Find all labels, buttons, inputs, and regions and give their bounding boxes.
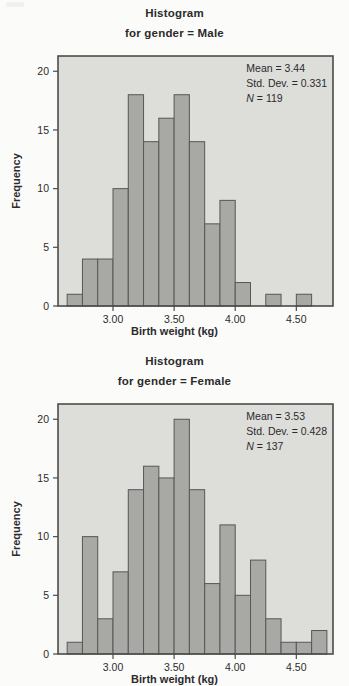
y-axis-label: Frequency: [10, 153, 22, 209]
histogram-bar: [113, 572, 128, 654]
chart-subtitle: for gender = Female: [0, 374, 349, 388]
histogram-bar: [82, 259, 97, 306]
x-tick-label: 4.00: [225, 313, 246, 324]
stat-stddev: Std. Dev. = 0.331: [246, 76, 327, 91]
y-tick-label: 15: [37, 472, 49, 484]
male-histogram-chart: Histogram for gender = Male 051015203.00…: [0, 0, 349, 338]
histogram-bar: [296, 294, 311, 306]
x-tick-label: 3.50: [164, 661, 185, 672]
x-tick-label: 4.00: [225, 661, 246, 672]
stat-n-symbol: N: [246, 440, 254, 452]
histogram-bar: [174, 419, 189, 654]
histogram-bar: [205, 584, 220, 654]
x-axis-label: Birth weight (kg): [0, 672, 349, 686]
y-tick-label: 0: [43, 300, 49, 312]
histogram-bar: [266, 619, 281, 654]
histogram-bar: [220, 525, 235, 654]
scanned-page: { "page": { "background": "#fbfbf9" }, "…: [0, 0, 349, 686]
y-axis-label: Frequency: [10, 501, 22, 557]
histogram-bar: [67, 642, 82, 654]
stats-box: Mean = 3.44 Std. Dev. = 0.331 N = 119: [246, 61, 327, 106]
histogram-bar: [281, 642, 296, 654]
x-axis-label: Birth weight (kg): [0, 324, 349, 338]
stat-n: N = 119: [246, 91, 327, 106]
chart-title: Histogram: [0, 6, 349, 20]
histogram-bar: [174, 95, 189, 306]
histogram-bar: [67, 294, 82, 306]
histogram-bar: [159, 118, 174, 306]
histogram-bar: [113, 189, 128, 306]
histogram-bar: [159, 478, 174, 654]
chart-subtitle: for gender = Male: [0, 26, 349, 40]
x-tick-label: 3.00: [103, 313, 124, 324]
histogram-bar: [82, 537, 97, 654]
y-tick-label: 20: [37, 65, 49, 77]
histogram-bar: [296, 642, 311, 654]
stats-box: Mean = 3.53 Std. Dev. = 0.428 N = 137: [246, 409, 327, 454]
histogram-bar: [189, 490, 204, 654]
x-tick-label: 4.50: [286, 313, 307, 324]
plot-wrap: 051015203.003.504.004.50 Mean = 3.53 Std…: [0, 396, 349, 672]
histogram-bar: [251, 560, 266, 654]
histogram-bar: [144, 142, 159, 306]
histogram-bar: [128, 95, 143, 306]
stat-mean: Mean = 3.53: [246, 409, 327, 424]
stat-n-symbol: N: [246, 92, 254, 104]
histogram-bar: [144, 466, 159, 654]
y-tick-label: 0: [43, 648, 49, 660]
chart-title: Histogram: [0, 354, 349, 368]
histogram-bar: [98, 619, 113, 654]
x-tick-label: 3.00: [103, 661, 124, 672]
stat-stddev: Std. Dev. = 0.428: [246, 424, 327, 439]
stat-n: N = 137: [246, 439, 327, 454]
x-tick-label: 4.50: [286, 661, 307, 672]
histogram-bar: [205, 224, 220, 306]
histogram-bar: [189, 142, 204, 306]
histogram-bar: [98, 259, 113, 306]
female-histogram-chart: Histogram for gender = Female 051015203.…: [0, 338, 349, 686]
stat-n-value: = 119: [254, 92, 283, 104]
y-tick-label: 5: [43, 589, 49, 601]
histogram-bar: [235, 283, 250, 306]
y-tick-label: 20: [37, 413, 49, 425]
y-tick-label: 5: [43, 241, 49, 253]
histogram-bar: [128, 490, 143, 654]
y-tick-label: 15: [37, 124, 49, 136]
histogram-bar: [266, 294, 281, 306]
stat-mean: Mean = 3.44: [246, 61, 327, 76]
plot-wrap: 051015203.003.504.004.50 Mean = 3.44 Std…: [0, 48, 349, 324]
y-tick-label: 10: [37, 182, 49, 194]
y-tick-label: 10: [37, 530, 49, 542]
stat-n-value: = 137: [254, 440, 284, 452]
histogram-bar: [220, 200, 235, 306]
x-tick-label: 3.50: [164, 313, 185, 324]
histogram-bar: [235, 595, 250, 654]
histogram-bar: [312, 631, 327, 654]
